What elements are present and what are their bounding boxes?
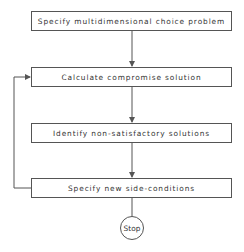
step-identify-nonsatisfactory: Identify non-satisfactory solutions: [31, 123, 232, 143]
step-label: Specify multidimensional choice problem: [38, 17, 225, 26]
step-label: Calculate compromise solution: [61, 73, 201, 82]
step-calculate-compromise: Calculate compromise solution: [31, 67, 232, 87]
step-label: Identify non-satisfactory solutions: [53, 129, 210, 138]
stop-label: Stop: [124, 224, 141, 233]
stop-terminal: Stop: [120, 216, 144, 240]
step-specify-problem: Specify multidimensional choice problem: [31, 11, 232, 31]
step-label: Specify new side-conditions: [68, 184, 195, 193]
step-specify-side-conditions: Specify new side-conditions: [31, 178, 232, 198]
feedback-loop-line: [14, 77, 31, 188]
